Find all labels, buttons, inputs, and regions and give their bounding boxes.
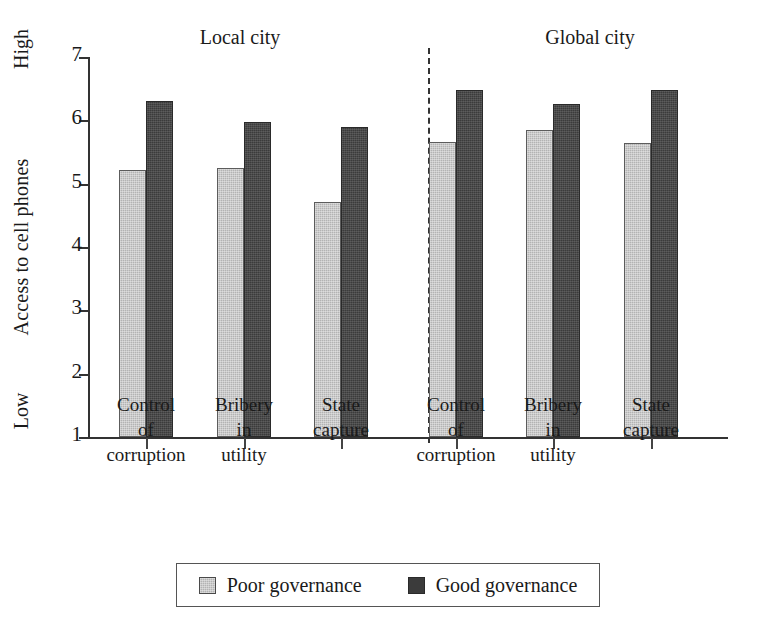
bar-chart-figure: Access to cell phones High Low Local cit… <box>0 0 776 625</box>
legend-label: Poor governance <box>227 574 362 597</box>
y-tick-label: 6 <box>72 107 83 128</box>
legend-item-poor-governance: Poor governance <box>199 574 362 597</box>
bar-good-governance <box>341 127 368 437</box>
legend-label: Good governance <box>436 574 578 597</box>
chart-legend: Poor governanceGood governance <box>176 563 600 607</box>
y-axis-title-text: Access to cell phones <box>10 159 33 336</box>
x-axis-category-label: Statecapture <box>276 392 406 442</box>
x-axis-category-line-3: utility <box>488 442 618 467</box>
y-tick-label: 7 <box>72 44 83 65</box>
plot-area: 7654321 <box>88 57 728 437</box>
y-axis-high-text: High <box>10 29 33 69</box>
y-tick-label: 2 <box>72 361 83 382</box>
x-axis-category-line-2: capture <box>276 417 406 442</box>
panel-title-local-city: Local city <box>140 26 340 49</box>
y-axis-low-text: Low <box>10 393 33 430</box>
x-axis-category-line-3: utility <box>179 442 309 467</box>
x-axis-category-line-2: capture <box>586 417 716 442</box>
bar-good-governance <box>456 90 483 437</box>
y-axis-title: Access to cell phones <box>6 57 36 437</box>
y-tick-label: 4 <box>72 234 83 255</box>
x-axis-category-label: Statecapture <box>586 392 716 442</box>
x-axis-category-line-1: State <box>586 392 716 417</box>
bar-good-governance <box>244 122 271 437</box>
panel-title-global-city: Global city <box>490 26 690 49</box>
bar-good-governance <box>146 101 173 437</box>
y-axis-low-label: Low <box>6 398 36 424</box>
x-axis-category-line-1: State <box>276 392 406 417</box>
legend-item-good-governance: Good governance <box>408 574 578 597</box>
y-axis-high-label: High <box>6 36 36 62</box>
legend-swatch-icon <box>408 577 425 594</box>
bar-good-governance <box>553 104 580 437</box>
legend-swatch-icon <box>199 577 216 594</box>
y-tick-label: 5 <box>72 171 83 192</box>
bar-good-governance <box>651 90 678 437</box>
y-tick-label: 3 <box>72 297 83 318</box>
